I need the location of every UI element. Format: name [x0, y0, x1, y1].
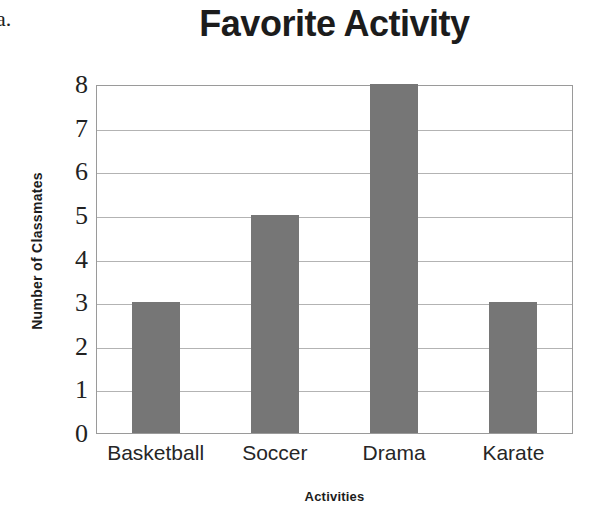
bar-cell-drama: [335, 86, 454, 433]
bar-soccer[interactable]: [251, 215, 299, 433]
x-axis-tick-karate: Karate: [454, 440, 573, 466]
bars-group: [97, 86, 572, 433]
plot-area: [96, 85, 573, 434]
y-axis-tick-5: 5: [46, 203, 88, 229]
y-axis-tick-8: 8: [46, 72, 88, 98]
y-axis-tick-labels: 876543210: [46, 85, 88, 434]
bar-basketball[interactable]: [132, 302, 180, 433]
bar-drama[interactable]: [370, 84, 418, 433]
x-axis-tick-soccer: Soccer: [215, 440, 334, 466]
y-axis-tick-2: 2: [46, 334, 88, 360]
chart-title: Favorite Activity: [96, 2, 573, 46]
x-axis-title: Activities: [96, 489, 573, 504]
x-axis-tick-basketball: Basketball: [96, 440, 215, 466]
y-axis-title: Number of Classmates: [29, 156, 45, 346]
bar-karate[interactable]: [489, 302, 537, 433]
y-axis-tick-1: 1: [46, 377, 88, 403]
bar-cell-karate: [453, 86, 572, 433]
bar-cell-soccer: [216, 86, 335, 433]
x-axis-tick-labels: BasketballSoccerDramaKarate: [96, 440, 573, 466]
y-axis-tick-7: 7: [46, 116, 88, 142]
y-axis-tick-0: 0: [46, 421, 88, 447]
y-axis-tick-4: 4: [46, 247, 88, 273]
bar-cell-basketball: [97, 86, 216, 433]
x-axis-tick-drama: Drama: [335, 440, 454, 466]
bar-chart-figure: Favorite Activity Number of Classmates 8…: [0, 0, 591, 516]
y-axis-tick-6: 6: [46, 159, 88, 185]
y-axis-tick-3: 3: [46, 290, 88, 316]
